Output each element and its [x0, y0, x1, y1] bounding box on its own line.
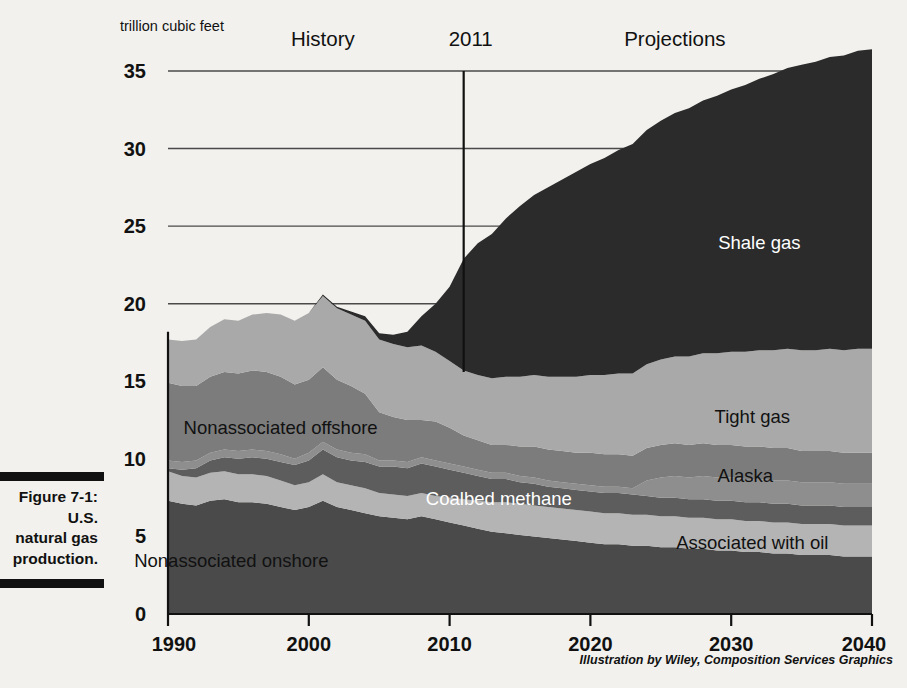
series-label-coalbed-methane: Coalbed methane [426, 488, 572, 509]
y-tick-label-15: 15 [124, 370, 146, 392]
series-label-nonassociated-onshore: Nonassociated onshore [134, 550, 328, 571]
y-tick-label-20: 20 [124, 293, 146, 315]
series-label-shale-gas: Shale gas [718, 232, 800, 253]
series-label-tight-gas: Tight gas [715, 406, 790, 427]
history-label: History [291, 27, 356, 50]
y-tick-label-10: 10 [124, 448, 146, 470]
area-series-group [168, 49, 872, 614]
x-tick-label-2010: 2010 [427, 633, 472, 655]
y-tick-label-5: 5 [135, 525, 146, 547]
y-axis-unit-label: trillion cubic feet [120, 18, 224, 34]
y-tick-label-35: 35 [124, 60, 146, 82]
stacked-area-chart: trillion cubic feet 05101520253035 19902… [0, 0, 907, 688]
x-tick-label-2030: 2030 [709, 633, 754, 655]
figure-root: Figure 7-1: U.S. natural gas production.… [0, 0, 907, 688]
chart-container: trillion cubic feet 05101520253035 19902… [0, 0, 907, 688]
series-label-nonassociated-offshore: Nonassociated offshore [184, 417, 378, 438]
x-tick-label-2000: 2000 [287, 633, 332, 655]
projections-label: Projections [624, 27, 725, 50]
y-tick-labels-group: 05101520253035 [124, 60, 146, 625]
period-annotations-group: HistoryProjections2011 [291, 27, 726, 50]
y-tick-label-30: 30 [124, 138, 146, 160]
x-tick-labels-group: 199020002010202020302040 [152, 633, 887, 655]
y-tick-label-25: 25 [124, 215, 146, 237]
illustration-credit: Illustration by Wiley, Composition Servi… [580, 653, 893, 667]
series-label-alaska: Alaska [718, 465, 774, 486]
divider-year-label: 2011 [449, 27, 493, 50]
x-tick-label-2020: 2020 [568, 633, 613, 655]
x-tick-label-1990: 1990 [152, 633, 197, 655]
series-label-associated-with-oil: Associated with oil [676, 532, 828, 553]
y-tick-label-0: 0 [135, 603, 146, 625]
x-tick-label-2040: 2040 [842, 633, 887, 655]
